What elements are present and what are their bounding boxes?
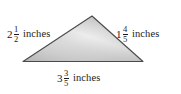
right-side-denominator: 5 bbox=[123, 34, 128, 44]
base-side-unit: inches bbox=[69, 73, 100, 84]
base-side-whole-number: 3 bbox=[57, 73, 63, 84]
base-side-fraction: 3 5 bbox=[64, 69, 69, 88]
left-side-whole-number: 2 bbox=[7, 29, 13, 40]
left-side-unit: inches bbox=[19, 29, 50, 40]
left-side-denominator: 2 bbox=[14, 34, 19, 44]
left-side-fraction: 1 2 bbox=[14, 25, 19, 44]
left-side-measurement-label: 2 1 2 inches bbox=[7, 25, 50, 44]
right-side-numerator: 4 bbox=[123, 25, 128, 34]
base-side-numerator: 3 bbox=[64, 69, 69, 78]
right-side-measurement-label: 1 4 5 inches bbox=[116, 25, 159, 44]
right-side-whole-number: 1 bbox=[116, 29, 122, 40]
right-side-unit: inches bbox=[128, 29, 159, 40]
base-side-denominator: 5 bbox=[64, 78, 69, 88]
triangle-figure: 2 1 2 inches 1 4 5 inches 3 3 5 inches bbox=[0, 0, 181, 94]
left-side-numerator: 1 bbox=[14, 25, 19, 34]
right-side-fraction: 4 5 bbox=[123, 25, 128, 44]
base-side-measurement-label: 3 3 5 inches bbox=[57, 69, 100, 88]
